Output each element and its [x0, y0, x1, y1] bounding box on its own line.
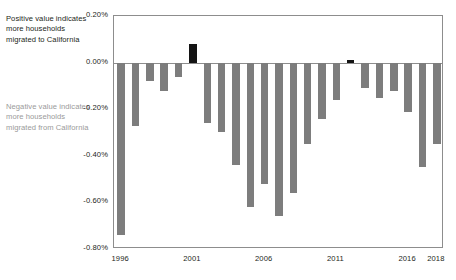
chart-bar — [204, 63, 211, 124]
chart-bar — [419, 63, 426, 168]
plot-area — [113, 15, 443, 248]
chart-bar — [232, 63, 239, 166]
chart-bar — [189, 44, 196, 63]
chart-bar — [261, 63, 268, 184]
x-tick-label: 2001 — [183, 254, 200, 263]
x-tick-label: 1996 — [112, 254, 129, 263]
y-tick-label: 0.00% — [64, 57, 108, 66]
chart-bar — [117, 63, 124, 235]
chart-bar — [433, 63, 440, 145]
chart-bar — [160, 63, 167, 91]
chart-bar — [390, 63, 397, 91]
migration-bar-chart: Positive value indicates more households… — [0, 0, 456, 280]
chart-bar — [218, 63, 225, 133]
chart-bar — [376, 63, 383, 98]
chart-bar — [347, 60, 354, 62]
chart-bar — [132, 63, 139, 126]
x-axis: 199620012006201120162018 — [113, 252, 443, 268]
chart-bar — [290, 63, 297, 193]
chart-bar — [404, 63, 411, 112]
x-tick-label: 2006 — [255, 254, 272, 263]
chart-bar — [175, 63, 182, 77]
chart-bar — [361, 63, 368, 89]
y-tick-label: -0.40% — [64, 150, 108, 159]
x-tick-label: 2011 — [327, 254, 344, 263]
x-tick-label: 2018 — [427, 254, 444, 263]
y-tick-label: -0.60% — [64, 196, 108, 205]
chart-bar — [333, 63, 340, 100]
chart-bar — [318, 63, 325, 119]
chart-bar — [275, 63, 282, 217]
y-tick-label: 0.20% — [64, 10, 108, 19]
x-tick-label: 2016 — [398, 254, 415, 263]
chart-bar — [146, 63, 153, 82]
y-tick-label: -0.20% — [64, 103, 108, 112]
chart-bar — [247, 63, 254, 207]
chart-bar — [304, 63, 311, 145]
y-tick-label: -0.80% — [64, 243, 108, 252]
y-axis: 0.20%0.00%-0.20%-0.40%-0.60%-0.80% — [60, 0, 108, 280]
